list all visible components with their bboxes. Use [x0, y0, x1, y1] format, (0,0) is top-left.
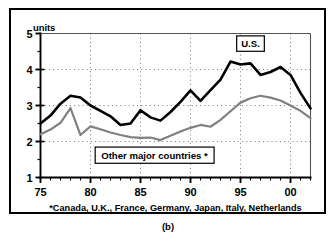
x-tick-label: 80 [84, 186, 96, 198]
y-tick-label: 3 [26, 100, 32, 112]
figure-panel-b: units 12345 758085909500 U.S.Other major… [0, 0, 336, 242]
x-tick-label: 00 [284, 186, 296, 198]
figure-caption: (b) [0, 221, 336, 232]
x-tick-label: 85 [134, 186, 146, 198]
y-tick-label: 1 [26, 172, 32, 184]
footnote-text: *Canada, U.K., France, Germany, Japan, I… [49, 203, 301, 213]
x-tick-label: 90 [184, 186, 196, 198]
other-series-label-text: Other major countries * [101, 150, 208, 161]
x-axis-tick-labels: 758085909500 [34, 186, 296, 198]
us-series-label-text: U.S. [241, 38, 260, 49]
chart-plot: 12345 758085909500 U.S.Other major count… [0, 0, 336, 242]
y-axis-tick-labels: 12345 [26, 28, 33, 184]
y-tick-label: 5 [26, 28, 32, 40]
x-tick-label: 95 [234, 186, 246, 198]
y-tick-label: 2 [26, 136, 32, 148]
y-tick-label: 4 [26, 64, 33, 76]
x-tick-label: 75 [34, 186, 46, 198]
